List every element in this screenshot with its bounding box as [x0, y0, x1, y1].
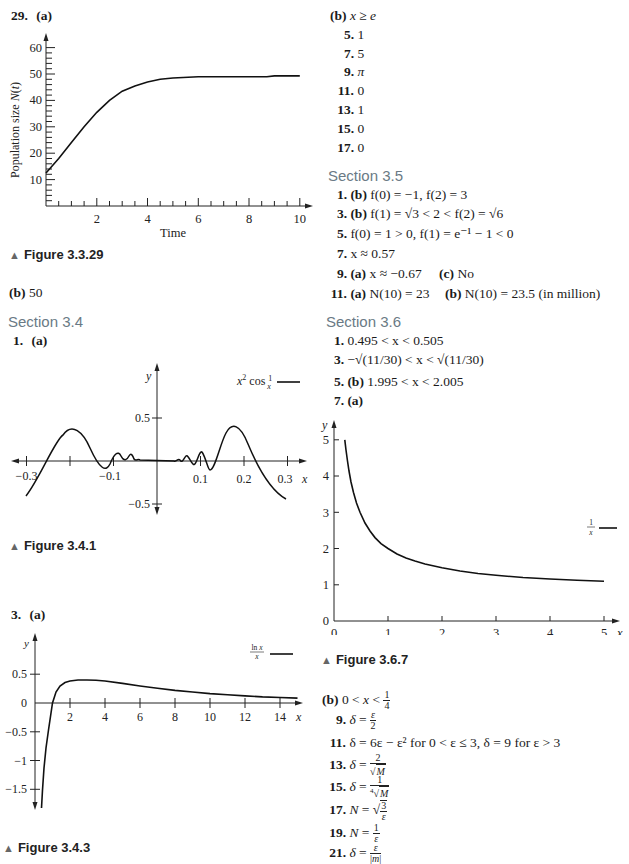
answer-13: 13. 1 — [330, 102, 364, 118]
svg-text:−0.3: −0.3 — [16, 469, 38, 483]
section-3-6-heading: Section 3.6 — [326, 313, 401, 330]
s36-answer-7a: 7. (a) — [330, 393, 363, 409]
s36-answer-9: 9. δ = ε2 — [322, 710, 376, 731]
answer-15: 15. 0 — [330, 121, 364, 137]
s36-answer-3: 3. −√(11/30) < x < √(11/30) — [330, 352, 484, 368]
s36-answer-7b: (b) 0 < x < 14 0 < x < 1/4 — [322, 690, 390, 711]
svg-text:50: 50 — [30, 67, 43, 81]
figure-3-4-3-caption: ▲Figure 3.4.3 — [3, 840, 90, 855]
s35-answer-7: 7. x ≈ 0.57 — [330, 246, 395, 262]
svg-text:x: x — [588, 528, 593, 537]
svg-text:x: x — [295, 710, 302, 724]
svg-text:ln x: ln x — [251, 643, 263, 652]
svg-text:6: 6 — [195, 212, 201, 226]
svg-text:60: 60 — [30, 41, 43, 55]
figure-3-6-7-chart: 0 1 2 3 4 5 x 0 1 2 3 4 5 y 1 x — [315, 415, 629, 635]
svg-text:0.3: 0.3 — [278, 472, 293, 486]
svg-text:y: y — [321, 418, 328, 432]
triangle-marker-icon: ▲ — [9, 540, 20, 552]
answer-9: 9. π — [330, 64, 364, 80]
svg-text:10: 10 — [30, 173, 43, 187]
svg-text:2: 2 — [439, 626, 445, 635]
section-3-5-heading: Section 3.5 — [328, 167, 403, 184]
svg-text:5: 5 — [601, 626, 607, 635]
answer-17: 17. 0 — [330, 140, 364, 156]
answer-b-x-geq-e: (b) x ≥ e — [330, 8, 376, 24]
question-29-heading: 29. (a) — [11, 8, 52, 24]
answer-7: 7. 5 — [330, 46, 364, 62]
svg-text:−1: −1 — [14, 754, 27, 768]
figure-3-3-29-caption: ▲Figure 3.3.29 — [9, 247, 103, 262]
s35-answer-11: 11. (a) N(10) = 23 (b) N(10) = 23.5 (in … — [326, 286, 600, 302]
svg-text:30: 30 — [30, 120, 43, 134]
svg-text:1: 1 — [589, 518, 593, 527]
s36-answer-17: 17. N = √3ε — [320, 800, 387, 822]
svg-text:10: 10 — [204, 710, 216, 724]
question-29b-answer: (b) 50 — [9, 285, 42, 301]
svg-text:0: 0 — [21, 696, 27, 710]
population-curve — [46, 76, 300, 173]
s35-answer-9: 9. (a) x ≈ −0.67 (c) No — [330, 266, 474, 282]
svg-text:−0.1: −0.1 — [99, 469, 121, 483]
answer-5: 5. 1 — [330, 27, 364, 43]
svg-text:−0.5: −0.5 — [128, 497, 150, 511]
svg-text:1: 1 — [323, 578, 329, 592]
s36-answer-11: 11. δ = 6ε − ε² for 0 < ε ≤ 3, δ = 9 for… — [320, 735, 560, 751]
svg-text:6: 6 — [137, 710, 143, 724]
svg-text:2: 2 — [94, 212, 100, 226]
figure-3-4-3-chart: 2 4 6 8 10 12 14 x 0.5 0 −0.5 −1 −1.5 y … — [0, 630, 320, 825]
figure-3-3-29-chart: Population size N(t) — [0, 25, 320, 240]
question-1a-heading: 1. (a) — [13, 333, 47, 349]
svg-text:3: 3 — [493, 626, 499, 635]
svg-text:x: x — [301, 472, 308, 486]
svg-text:1: 1 — [385, 626, 391, 635]
svg-text:4: 4 — [102, 710, 108, 724]
svg-text:4: 4 — [323, 469, 330, 483]
triangle-marker-icon: ▲ — [3, 842, 14, 854]
svg-text:0.5: 0.5 — [12, 667, 27, 681]
svg-text:20: 20 — [30, 146, 43, 160]
s35-answer-5: 5. f(0) = 1 > 0, f(1) = e⁻¹ − 1 < 0 — [330, 226, 514, 242]
s36-answer-21: 21. δ = ε|m| — [320, 843, 381, 864]
s35-answer-3: 3. (b) f(1) = √3 < 2 < f(2) = √6 — [330, 206, 503, 222]
y-axis-label: Population size N(t) — [8, 82, 22, 178]
svg-text:0.5: 0.5 — [135, 411, 150, 425]
svg-text:x: x — [616, 626, 623, 635]
figure-3-4-1-chart: −0.3 −0.1 0.1 0.2 0.3 x 0.5 −0.5 y x2 co… — [0, 360, 320, 535]
svg-text:0: 0 — [323, 614, 329, 628]
svg-text:4: 4 — [547, 626, 554, 635]
svg-text:10: 10 — [294, 212, 307, 226]
svg-text:y: y — [145, 369, 152, 383]
legend-label: x2 cos 1x — [236, 373, 272, 391]
svg-text:0.1: 0.1 — [193, 472, 208, 486]
svg-text:x: x — [254, 652, 259, 661]
figure-3-4-1-caption: ▲Figure 3.4.1 — [9, 538, 96, 553]
x-axis-label: Time — [160, 226, 186, 240]
svg-text:8: 8 — [246, 212, 252, 226]
svg-text:2: 2 — [323, 542, 329, 556]
part-label: (a) — [36, 8, 52, 23]
svg-text:−0.5: −0.5 — [5, 725, 27, 739]
s36-answer-1: 1. 0.495 < x < 0.505 — [330, 333, 444, 349]
reciprocal-curve — [345, 440, 604, 582]
svg-text:2: 2 — [67, 710, 73, 724]
svg-text:0.2: 0.2 — [237, 472, 252, 486]
svg-text:y: y — [23, 637, 29, 649]
question-number: 29. — [11, 8, 28, 24]
s36-answer-15: 15. δ = 14√M — [320, 775, 389, 800]
svg-text:8: 8 — [172, 710, 178, 724]
answer-11: 11. 0 — [330, 83, 364, 99]
s36-answer-19: 19. N = 1ε — [320, 823, 380, 844]
triangle-marker-icon: ▲ — [321, 654, 332, 666]
svg-text:14: 14 — [274, 710, 286, 724]
svg-text:12: 12 — [239, 710, 251, 724]
svg-text:5: 5 — [323, 433, 329, 447]
lnx-over-x-curve — [42, 680, 298, 808]
svg-text:3: 3 — [323, 506, 329, 520]
svg-text:−1.5: −1.5 — [5, 782, 27, 796]
svg-text:0: 0 — [331, 626, 337, 635]
s35-answer-1: 1. (b) f(0) = −1, f(2) = 3 — [330, 187, 467, 203]
figure-3-6-7-caption: ▲Figure 3.6.7 — [321, 652, 408, 667]
triangle-marker-icon: ▲ — [9, 249, 20, 261]
svg-text:40: 40 — [30, 93, 43, 107]
